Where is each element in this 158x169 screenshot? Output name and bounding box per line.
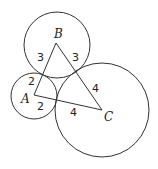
length-label-ab-a: 2 [28,75,35,88]
triangle-circles-diagram: B A C 3 3 2 2 4 4 [0,0,158,169]
length-label-bc-b: 3 [72,51,79,64]
length-label-ab-b: 3 [37,51,44,64]
length-label-ac-a: 2 [37,100,44,113]
length-label-bc-c: 4 [92,82,99,95]
vertex-label-c: C [104,110,113,124]
length-label-ac-c: 4 [70,106,77,119]
vertex-label-a: A [20,92,30,106]
vertex-label-b: B [53,27,63,41]
